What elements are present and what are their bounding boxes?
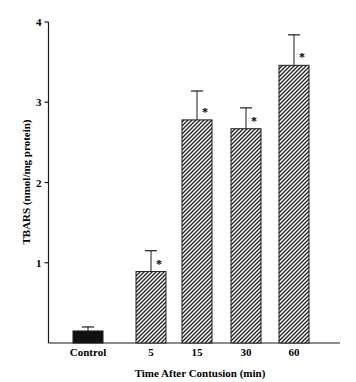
y-axis-title: TBARS (nmol/mg protein) [20, 119, 33, 244]
y-tick-label: 2 [36, 177, 42, 189]
x-axis-title: Time After Contusion (min) [135, 367, 266, 380]
bar-rect [136, 272, 166, 343]
x-tick-label: Control [70, 346, 106, 358]
significance-marker: * [299, 50, 305, 64]
bar-rect [279, 65, 309, 343]
bar-5: * [136, 251, 166, 343]
y-tick-label: 1 [36, 257, 42, 269]
x-tick-label: 5 [148, 346, 154, 358]
bar-control [73, 327, 103, 343]
y-axis: 1234 [36, 16, 49, 343]
significance-marker: * [251, 114, 257, 128]
significance-marker: * [156, 257, 162, 271]
bar-15: * [182, 91, 212, 343]
x-tick-label: 30 [241, 346, 253, 358]
category-labels: Control5153060 [70, 346, 300, 358]
bar-rect [182, 120, 212, 343]
bar-chart: 1234 **** Control5153060 Time After Cont… [0, 0, 356, 382]
bar-rect [73, 331, 103, 343]
bar-60: * [279, 35, 309, 343]
y-tick-label: 3 [36, 96, 42, 108]
x-tick-label: 60 [289, 346, 301, 358]
y-tick-label: 4 [36, 16, 42, 28]
significance-marker: * [202, 105, 208, 119]
x-tick-label: 15 [192, 346, 204, 358]
bar-30: * [231, 108, 261, 343]
bars-group: **** [73, 35, 309, 343]
bar-rect [231, 129, 261, 343]
